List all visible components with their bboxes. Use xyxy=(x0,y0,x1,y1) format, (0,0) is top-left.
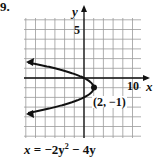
arrow-upper-left-icon xyxy=(26,58,34,66)
x-axis-label: x xyxy=(146,80,153,93)
equation-eq: = xyxy=(34,142,41,157)
equation-term2: − 4y xyxy=(72,142,96,157)
equation-term1: −2y xyxy=(44,142,64,157)
y-axis xyxy=(81,5,87,138)
x-tick-label: 10 xyxy=(127,80,139,92)
equation: x = −2y2 − 4y xyxy=(24,143,96,156)
vertex-label: (2, −1) xyxy=(92,96,127,108)
equation-exponent: 2 xyxy=(65,142,69,151)
y-tick-label: 5 xyxy=(74,24,80,36)
equation-lhs: x xyxy=(24,142,31,157)
vertex-point xyxy=(91,85,97,91)
y-axis-label: y xyxy=(72,5,78,18)
